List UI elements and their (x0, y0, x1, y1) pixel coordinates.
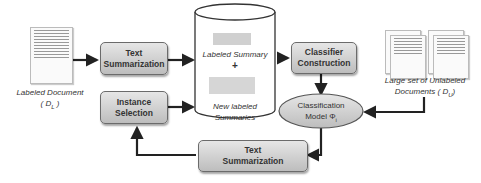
labeled-summary-label: Labeled Summary (197, 49, 273, 60)
summary-thumbnail (213, 33, 251, 45)
new-summaries-thumbnail (209, 77, 255, 94)
unlabeled-document-stack-1b (390, 35, 426, 79)
text-summarization-top: Text Summarization (100, 42, 168, 75)
unlabeled-document-stack-2b (433, 35, 469, 79)
unlabeled-documents-label: Large set of Unlabeled Documents ( DU) (375, 75, 475, 101)
plus-sign: + (225, 60, 245, 71)
text-summarization-bottom: Text Summarization (198, 140, 308, 172)
new-labeled-summaries-label: New labeled Summaries (197, 101, 273, 123)
labeled-document-label: Labeled Document ( DL ) (10, 87, 90, 113)
classifier-construction: Classifier Construction (291, 42, 357, 74)
instance-selection: Instance Selection (100, 91, 168, 124)
classification-model-label: Classification Model Φi (283, 100, 359, 126)
labeled-document-thumbnail (30, 27, 73, 84)
